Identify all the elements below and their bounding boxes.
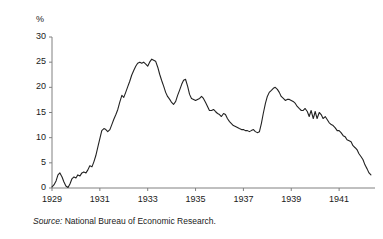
x-tick-label: 1933 (128, 194, 168, 204)
x-tick-label: 1941 (319, 194, 359, 204)
chart-tick-marks (49, 37, 339, 191)
unemployment-rate-line (52, 59, 371, 187)
y-tick-label: 10 (24, 132, 46, 142)
x-tick-label: 1935 (176, 194, 216, 204)
y-tick-label: 15 (24, 107, 46, 117)
y-tick-label: 30 (24, 31, 46, 41)
source-note: Source: National Bureau of Economic Rese… (33, 216, 216, 226)
x-tick-label: 1939 (271, 194, 311, 204)
x-tick-label: 1937 (223, 194, 263, 204)
chart-axes (52, 37, 375, 188)
unemployment-chart-figure: % 051015202530 1929193119331935193719391… (0, 0, 383, 239)
source-text: National Bureau of Economic Research. (65, 216, 216, 226)
x-tick-label: 1931 (80, 194, 120, 204)
x-tick-label: 1929 (32, 194, 72, 204)
y-tick-label: 25 (24, 56, 46, 66)
y-axis-unit-label: % (36, 14, 44, 24)
y-tick-label: 5 (24, 157, 46, 167)
y-tick-label: 20 (24, 81, 46, 91)
source-label: Source: (33, 216, 62, 226)
y-tick-label: 0 (24, 182, 46, 192)
